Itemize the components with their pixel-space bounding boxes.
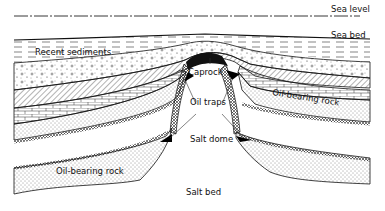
- sea-level-label: Sea level: [331, 4, 370, 14]
- oil-bearing-rock-left-label: Oil-bearing rock: [56, 166, 124, 176]
- recent-sediments-label: Recent sediments: [35, 47, 112, 57]
- sea-bed-label: Sea bed: [331, 30, 366, 40]
- caprock-label: Caprock: [188, 67, 223, 77]
- oil-traps-label: Oil traps: [190, 97, 227, 107]
- lower-oil-bearing-rock-right: [236, 132, 370, 184]
- salt-dome-diagram: Sea level Sea bed Recent sediments Capro…: [0, 0, 385, 211]
- salt-bed-label: Salt bed: [186, 187, 221, 197]
- salt-dome-label: Salt dome: [190, 134, 233, 144]
